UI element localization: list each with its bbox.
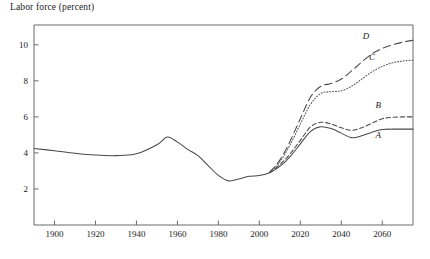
x-tick-label: 1960 <box>168 229 187 239</box>
y-axis-ticks: 246810 <box>19 40 39 194</box>
x-tick-label: 1980 <box>209 229 228 239</box>
x-tick-label: 2060 <box>373 229 392 239</box>
x-tick-label: 2020 <box>291 229 310 239</box>
y-tick-label: 2 <box>24 184 29 194</box>
y-tick-label: 10 <box>19 40 29 50</box>
x-axis-ticks: 190019201940196019802000202020402060 <box>45 221 391 240</box>
series-label-b: B <box>375 100 381 110</box>
x-tick-label: 2040 <box>332 229 351 239</box>
x-tick-label: 1900 <box>45 229 64 239</box>
series-line-b <box>270 117 413 173</box>
chart-figure: Labor force (percent) 190019201940196019… <box>0 0 430 259</box>
series-line-a <box>34 127 413 181</box>
series-label-a: A <box>374 130 381 140</box>
x-tick-label: 2000 <box>250 229 269 239</box>
y-tick-label: 4 <box>24 148 29 158</box>
chart-axes <box>34 25 413 225</box>
x-tick-label: 1920 <box>86 229 105 239</box>
series-label-c: C <box>369 52 376 62</box>
axis-frame <box>34 25 413 225</box>
series-label-d: D <box>362 31 370 41</box>
x-tick-label: 1940 <box>127 229 146 239</box>
series-labels-group: ABCD <box>362 31 382 140</box>
y-tick-label: 8 <box>24 76 29 86</box>
line-chart-plot: 190019201940196019802000202020402060 246… <box>0 0 430 259</box>
y-tick-label: 6 <box>24 112 29 122</box>
chart-series-group <box>34 40 413 181</box>
